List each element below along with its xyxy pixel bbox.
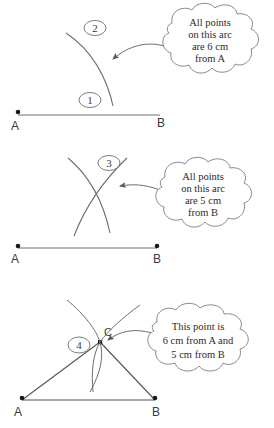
callout-bubble-panel3: This point is 6 cm from A and 5 cm from … <box>148 303 248 371</box>
callout-line-3-panel1: are 6 cm <box>192 41 228 52</box>
callout-pointer-panel3 <box>108 331 152 340</box>
callout-line-1-panel2: All points <box>182 171 224 182</box>
step-marker-1-number: 1 <box>87 94 93 106</box>
panel-3: A B C 4 This point is 6 cm from A and 5 … <box>14 300 248 419</box>
step-marker-2-number: 2 <box>92 22 98 34</box>
callout-line-3-panel3: 5 cm from B <box>171 349 224 360</box>
point-a-dot-panel2 <box>16 244 21 249</box>
point-a-label-panel3: A <box>14 405 22 419</box>
point-a-dot-panel3 <box>20 396 25 401</box>
callout-bubble-panel2: All points on this arc are 5 cm from B <box>156 157 252 227</box>
construction-svg: A B 1 2 All points on this arc are 6 c <box>0 0 274 428</box>
callout-line-4-panel1: from A <box>195 53 225 64</box>
panel-2: A B 3 All points on this arc are 5 cm fr… <box>11 156 252 267</box>
segment-ac-panel3 <box>22 342 100 400</box>
step-marker-3: 3 <box>98 156 120 171</box>
callout-line-1-panel3: This point is <box>172 321 225 332</box>
point-a-label-panel1: A <box>11 119 19 133</box>
callout-pointer-panel2 <box>120 185 160 190</box>
point-a-dot-panel1 <box>16 110 21 115</box>
callout-bubble-panel1: All points on this arc are 6 cm from A <box>163 3 259 73</box>
step-marker-4: 4 <box>68 337 90 353</box>
step-marker-3-number: 3 <box>106 157 112 169</box>
point-b-label-panel3: B <box>152 405 160 419</box>
point-b-dot-panel3 <box>153 396 158 401</box>
callout-line-4-panel2: from B <box>188 207 218 218</box>
construction-figure: A B 1 2 All points on this arc are 6 c <box>0 0 274 428</box>
segment-bc-panel3 <box>100 342 155 400</box>
point-a-label-panel2: A <box>11 252 19 266</box>
step-marker-1: 1 <box>79 93 101 108</box>
callout-line-1-panel1: All points <box>189 17 231 28</box>
step-marker-2: 2 <box>84 21 106 36</box>
panel-1: A B 1 2 All points on this arc are 6 c <box>11 3 259 133</box>
callout-line-3-panel2: are 5 cm <box>185 195 221 206</box>
step-marker-4-number: 4 <box>76 339 82 351</box>
point-b-dot-panel2 <box>155 244 160 249</box>
callout-line-2-panel2: on this arc <box>181 183 225 194</box>
arc-from-b-panel3 <box>92 305 140 392</box>
point-b-label-panel2: B <box>153 252 161 266</box>
callout-line-2-panel1: on this arc <box>188 29 232 40</box>
point-b-label-panel1: B <box>157 116 165 130</box>
callout-line-2-panel3: 6 cm from A and <box>163 335 234 346</box>
arc-from-b-panel2 <box>74 158 127 236</box>
callout-pointer-panel1 <box>113 44 167 59</box>
